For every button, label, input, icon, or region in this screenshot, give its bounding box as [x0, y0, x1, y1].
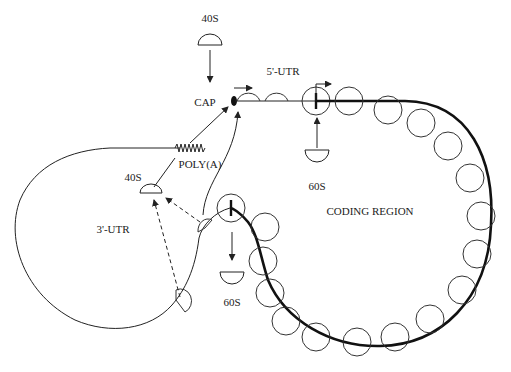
dashed-recycle-arrow-icon [166, 198, 200, 222]
utr3-label: 3'-UTR [96, 223, 130, 235]
ribosome-icon [251, 213, 279, 241]
terminating-40s-dome-icon [176, 289, 192, 312]
coding-region-label: CODING REGION [326, 205, 413, 217]
incoming-40s-subunit: 40S [198, 12, 222, 82]
top-40s-label: 40S [201, 12, 218, 24]
poly-a-label: POLY(A) [179, 158, 222, 171]
ribosome-icon [272, 307, 300, 335]
cap-label: CAP [194, 96, 215, 108]
ribosome-icon [381, 323, 409, 351]
translation-start-arrow-icon [316, 84, 331, 101]
40s-to-poly-a-line [154, 158, 175, 187]
60s-cup-icon [305, 150, 329, 162]
ribosome-icon [448, 276, 476, 304]
poly-a-to-cap-arrow-icon [190, 107, 228, 143]
ribosome-icon [456, 164, 484, 192]
ribosome-icon [407, 109, 435, 137]
coding-region-strand [230, 101, 491, 346]
scanning-40s-dome-icon [265, 93, 288, 101]
ribosome-icon [434, 132, 462, 160]
top-60s-label: 60S [308, 180, 325, 192]
utr3-strand [15, 148, 230, 328]
dashed-recycle-arrow-icon [154, 200, 180, 297]
mrna-translation-diagram: 40S CAP 5'-UTR 60S CODING REGION [0, 0, 511, 372]
ribosome-icon [416, 305, 444, 333]
bottom-60s-label: 60S [223, 296, 240, 308]
poly-a-tail-icon [175, 144, 205, 152]
40s-dome-icon [198, 34, 222, 45]
released-60s-cup-icon [220, 272, 244, 284]
utr5-label: 5'-UTR [266, 65, 300, 77]
scanning-40s-dome-icon [237, 93, 260, 101]
recycled-40s-dome-icon [140, 184, 162, 193]
left-40s-label: 40S [124, 171, 141, 183]
